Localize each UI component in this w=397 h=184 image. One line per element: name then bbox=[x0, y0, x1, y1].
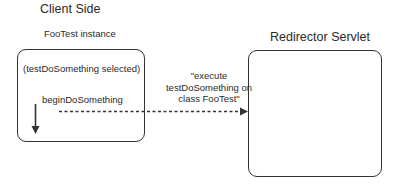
dashed-arrow-right-icon bbox=[59, 108, 248, 116]
arrow-down-icon bbox=[32, 104, 40, 134]
arrows-layer bbox=[0, 0, 397, 184]
